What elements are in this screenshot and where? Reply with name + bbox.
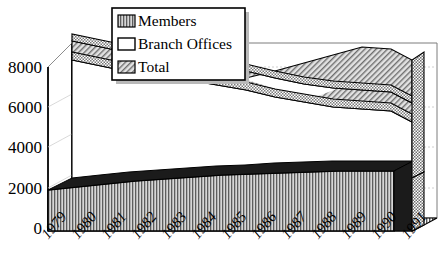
y-tick-label: 4000 <box>8 138 42 157</box>
chart-legend[interactable]: Members Branch Offices Total <box>112 8 249 84</box>
legend-swatch-total <box>118 61 135 73</box>
legend-swatch-branch-offices <box>118 38 135 50</box>
legend-label-members: Members <box>138 12 197 29</box>
chart-container: 8000 6000 4000 2000 0 1979 1980 1981 198… <box>0 0 446 279</box>
y-tick-label: 6000 <box>8 98 42 117</box>
area-chart-svg: 8000 6000 4000 2000 0 1979 1980 1981 198… <box>0 0 446 279</box>
y-axis-labels: 8000 6000 4000 2000 0 <box>8 58 42 238</box>
legend-label-branch-offices: Branch Offices <box>138 35 232 52</box>
legend-swatch-members <box>118 15 135 27</box>
y-tick-label: 2000 <box>8 179 42 198</box>
legend-label-total: Total <box>138 58 170 75</box>
y-tick-label: 8000 <box>8 58 42 77</box>
